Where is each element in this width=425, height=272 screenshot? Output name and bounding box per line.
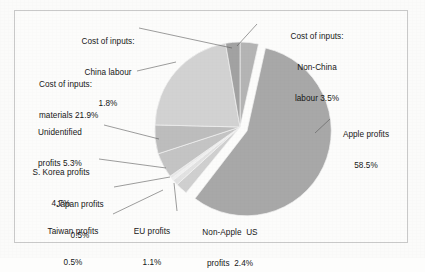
label-non-china-labour-line3: labour 3.5%: [267, 94, 367, 104]
label-apple-profits: Apple profits 58.5%: [329, 110, 403, 192]
label-taiwan-line2: 0.5%: [32, 258, 114, 268]
label-eu-profits: EU profits 1.1%: [120, 207, 184, 272]
slice-materials[interactable]: [155, 43, 240, 127]
label-eu-line1: EU profits: [120, 227, 184, 237]
label-non-china-labour: Cost of inputs: Non-China labour 3.5%: [267, 12, 367, 124]
label-taiwan-line1: Taiwan profits: [32, 227, 114, 237]
label-taiwan-profits: Taiwan profits 0.5%: [32, 207, 114, 272]
label-non-apple-line2: profits 2.4%: [182, 259, 278, 269]
label-materials-line1: Cost of inputs:: [39, 80, 141, 90]
label-non-china-labour-line2: Non-China: [267, 63, 367, 73]
label-non-china-labour-line1: Cost of inputs:: [267, 32, 367, 42]
label-apple-line1: Apple profits: [329, 130, 403, 140]
label-eu-line2: 1.1%: [120, 258, 184, 268]
label-apple-line2: 58.5%: [329, 161, 403, 171]
label-china-labour-line1: Cost of inputs:: [62, 37, 154, 47]
label-non-apple-line1: Non-Apple US: [182, 228, 278, 238]
label-s-korea-line1: S. Korea profits: [20, 168, 102, 178]
label-non-apple-us-profits: Non-Apple US profits 2.4%: [182, 208, 278, 272]
label-unidentified-line1: Unidentified: [38, 128, 126, 138]
